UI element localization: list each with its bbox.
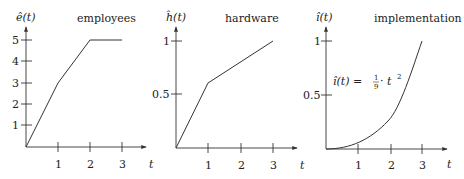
y-tick-label: 3 [12, 77, 19, 90]
series-line [26, 40, 122, 147]
y-ticks [321, 41, 332, 95]
x-tick-label: 2 [388, 159, 395, 172]
x-tick-label: 1 [205, 159, 212, 172]
chart-title: employees [77, 12, 136, 25]
x-tick-label: 1 [55, 158, 62, 171]
charts-canvas: 1 2 3 t 1 2 3 4 5 ê(t) employees 1 2 3 t… [0, 0, 464, 179]
svg-text:9: 9 [374, 83, 378, 91]
chart-hardware: 1 2 3 t 0.5 1 ĥ(t) hardware [152, 10, 305, 172]
x-tick-label: 1 [355, 159, 362, 172]
y-tick-label: 5 [12, 34, 19, 47]
chart-employees: 1 2 3 t 1 2 3 4 5 ê(t) employees [12, 11, 154, 171]
y-ticks [21, 40, 32, 125]
y-tick-label: 2 [12, 98, 19, 111]
chart-title: implementation [374, 12, 462, 25]
x-tick-label: 3 [419, 159, 426, 172]
x-tick-label: 3 [270, 159, 277, 172]
svg-text:î(t) =: î(t) = [333, 75, 362, 88]
y-tick-label: 1 [314, 35, 321, 48]
y-tick-label: 1 [12, 119, 19, 132]
chart-implementation: 1 2 3 t 0.5 1 î(t) implementation î(t) =… [303, 11, 462, 172]
x-tick-label: 2 [87, 158, 94, 171]
series-line [176, 41, 273, 148]
series-curve [326, 41, 422, 149]
svg-text:· t: · t [380, 75, 392, 88]
svg-text:2: 2 [397, 73, 401, 81]
y-tick-label: 1 [163, 35, 170, 48]
x-axis-label: t [149, 158, 154, 171]
y-tick-label: 0.5 [152, 88, 170, 101]
y-axis-label: î(t) [316, 11, 333, 24]
y-tick-label: 4 [12, 55, 19, 68]
x-axis-label: t [300, 159, 305, 172]
chart-title: hardware [225, 12, 279, 25]
formula-annotation: î(t) = 1 9 · t 2 [333, 73, 401, 91]
y-axis-label: ĥ(t) [166, 10, 186, 24]
svg-text:1: 1 [374, 74, 378, 82]
x-tick-label: 2 [238, 159, 245, 172]
y-tick-label: 0.5 [303, 89, 321, 102]
x-tick-label: 3 [119, 158, 126, 171]
y-axis-label: ê(t) [16, 11, 36, 24]
x-axis-label: t [447, 158, 452, 171]
y-ticks [171, 41, 182, 94]
